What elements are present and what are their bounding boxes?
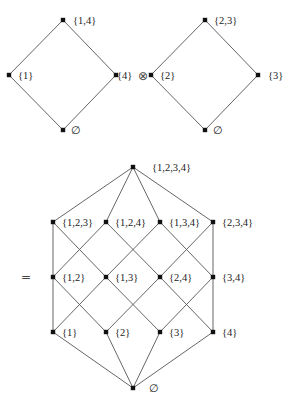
lattice-edge [53,167,133,222]
lattice-node-dot [203,18,207,22]
lattice-node-label: {3,4} [222,272,245,283]
lattice-node-dot [149,73,153,77]
lattice-edge [133,167,213,222]
lattice-node-dot [104,330,108,334]
lattice-node-label: {2} [115,327,130,338]
lattice-node-label: {1,3,4} [169,217,200,228]
lattice-node-dot [211,330,215,334]
lattice-node-label: {2,4} [169,272,192,283]
lattice-node-dot [51,220,55,224]
lattice-node-label: {2,3,4} [222,217,253,228]
lattice-node-dot [158,275,162,279]
lattice-node-label: {1,3} [115,272,138,283]
lattice-node-label: {2,3} [214,15,237,26]
lattice-node-label: {1} [62,327,77,338]
equals-symbol: = [21,270,31,284]
lattice-node-label: {1,2} [62,272,85,283]
lattice-edge [63,20,116,75]
lattice-edge [53,332,133,388]
lattice-edge [151,20,205,75]
lattice-node-dot [7,73,11,77]
left-lattice: ∅{1}{4}{1,4} [7,15,133,136]
lattice-edge [106,167,133,222]
lattice-edge [205,20,258,75]
lattice-node-dot [131,165,135,169]
lattice-edge [9,20,63,75]
lattice-node-dot [158,330,162,334]
lattice-node-label: ∅ [149,383,159,394]
lattice-edge [106,332,133,388]
lattice-node-label: {3} [268,70,283,81]
lattice-node-label: {1,2,4} [115,217,146,228]
lattice-node-dot [256,73,260,77]
product-lattice: {1,2,3,4}{1,2,3}{1,2,4}{1,3,4}{2,3,4}{1,… [51,162,253,394]
lattice-node-label: {1} [18,70,33,81]
lattice-product-diagram: ∅{1}{4}{1,4} ⊗ ∅{2}{3}{2,3} = {1,2,3,4}{… [0,0,288,404]
lattice-edge [9,75,63,130]
lattice-node-label: {4} [117,70,132,81]
lattice-node-dot [61,18,65,22]
lattice-edge [151,75,205,130]
lattice-node-dot [131,386,135,390]
right-lattice: ∅{2}{3}{2,3} [149,15,284,136]
lattice-node-label: {4} [222,327,237,338]
lattice-node-dot [158,220,162,224]
lattice-node-dot [104,220,108,224]
lattice-node-dot [61,128,65,132]
lattice-node-label: {1,2,3,4} [152,162,191,173]
lattice-node-label: ∅ [71,125,81,136]
lattice-node-dot [51,330,55,334]
lattice-node-dot [211,275,215,279]
lattice-node-dot [211,220,215,224]
lattice-node-label: {1,4} [73,15,96,26]
lattice-edge [133,167,160,222]
lattice-node-label: {1,2,3} [62,217,93,228]
lattice-node-label: {3} [169,327,184,338]
lattice-edge [205,75,258,130]
lattice-node-dot [203,128,207,132]
lattice-node-dot [104,275,108,279]
lattice-edge [133,332,213,388]
lattice-edge [133,332,160,388]
lattice-node-label: {2} [160,70,175,81]
lattice-edge [63,75,116,130]
tensor-product-symbol: ⊗ [138,69,148,83]
lattice-node-label: ∅ [213,125,223,136]
lattice-node-dot [51,275,55,279]
